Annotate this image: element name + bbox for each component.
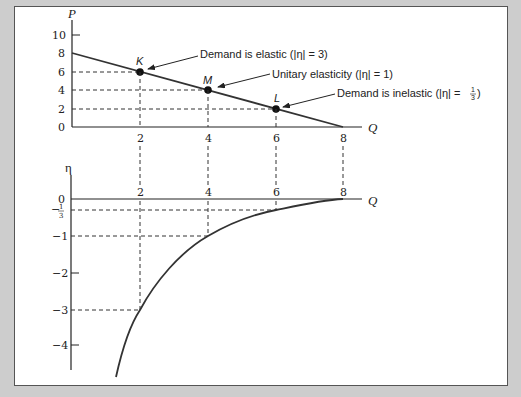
p-axis-label: P [67, 6, 76, 21]
svg-text:1: 1 [471, 86, 475, 93]
annotation-elastic: Demand is elastic (|η| = 3) [200, 48, 328, 60]
q-tick-label: 2 [137, 186, 144, 199]
q-axis-label-top: Q [368, 120, 378, 135]
annotation-inelastic: Demand is inelastic (|η| = 1 3 ) [337, 86, 481, 101]
q-tick-label: 6 [273, 132, 280, 145]
svg-text:3: 3 [59, 212, 63, 220]
q-tick-label: 4 [205, 132, 212, 145]
point-k-label: K [136, 55, 144, 67]
elasticity-figure: P Q 10 8 6 4 2 0 2 4 6 8 K M L [0, 0, 521, 397]
eta-tick-label: −1 [52, 230, 68, 243]
q-tick-label: 2 [137, 132, 144, 145]
q-tick-label: 6 [273, 186, 280, 199]
vertical-guides [140, 72, 343, 310]
guide-lines-top [72, 72, 276, 109]
p-tick-label: 10 [52, 29, 66, 42]
eta-axis-label: η [65, 160, 72, 175]
p-tick-label: 8 [58, 47, 65, 60]
p-tick-label: 4 [58, 84, 65, 97]
p-tick-label: 6 [58, 66, 65, 79]
eta-tick-label: −3 [52, 304, 68, 317]
svg-text:1: 1 [59, 203, 63, 211]
guide-lines-bottom [71, 210, 276, 310]
eta-tick-label: −2 [52, 267, 68, 280]
q-tick-label: 8 [340, 132, 347, 145]
q-tick-label: 4 [205, 186, 212, 199]
p-tick-label: 2 [58, 103, 65, 116]
q-tick-label: 8 [340, 186, 347, 199]
annotation-unitary: Unitary elasticity (|η| = 1) [272, 68, 393, 80]
point-m-label: M [203, 74, 213, 86]
demand-chart: P Q 10 8 6 4 2 0 2 4 6 8 K M L [52, 6, 481, 145]
eta-tick-minus-third: − 1 3 [51, 203, 64, 220]
elasticity-curve [116, 199, 343, 377]
svg-text:Demand is inelastic (|η| =: Demand is inelastic (|η| = [337, 87, 460, 99]
p-tick-label: 0 [58, 121, 65, 134]
svg-text:): ) [477, 87, 481, 99]
q-axis-label-bottom: Q [368, 193, 378, 208]
point-l-label: L [274, 92, 280, 104]
svg-text:3: 3 [471, 94, 475, 101]
elasticity-chart: η Q 2 4 6 8 0 − 1 3 −1 −2 −3 −4 [51, 160, 378, 377]
eta-tick-label: −4 [52, 339, 68, 352]
